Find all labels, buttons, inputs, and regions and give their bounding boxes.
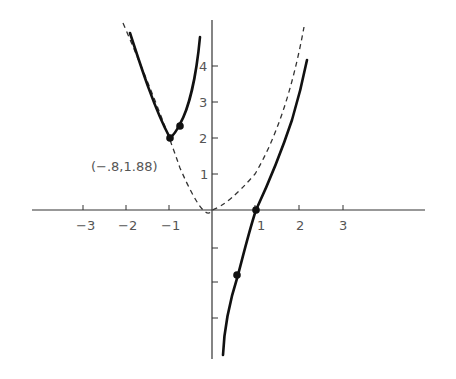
y-tick-label: 3: [199, 95, 207, 110]
point-right-lower: [233, 271, 241, 279]
curve-left-branch: [130, 33, 200, 138]
x-tick-label: 3: [339, 218, 347, 233]
x-tick-label: −3: [76, 218, 95, 233]
point-min-left: [166, 134, 174, 142]
y-ticks: [212, 66, 218, 318]
curve-right-branch: [223, 60, 307, 355]
y-tick-label: 4: [199, 59, 207, 74]
x-tick-label: −1: [161, 218, 180, 233]
point-left-2: [176, 122, 184, 130]
x-tick-label: 1: [257, 218, 265, 233]
x-tick-label: 2: [296, 218, 304, 233]
y-tick-label: 2: [199, 131, 207, 146]
x-tick-label: −2: [118, 218, 137, 233]
chart: −3 −2 −1 1 2 3 1 2 3 4 (−.8,1.88): [0, 0, 456, 379]
dashed-parabola: [123, 23, 304, 213]
point-x-intercept: [252, 206, 260, 214]
point-annotation: (−.8,1.88): [91, 159, 158, 174]
y-tick-label: 1: [200, 167, 208, 182]
